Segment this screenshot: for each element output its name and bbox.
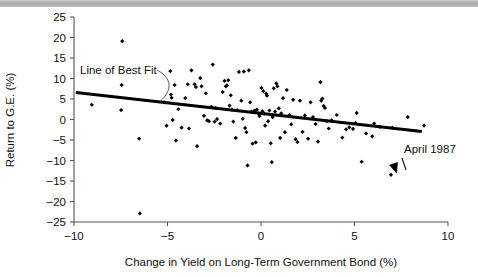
y-tick-label: 10 [53, 73, 66, 85]
data-point [272, 86, 276, 90]
data-point [168, 69, 172, 73]
y-tick-label: 15 [53, 52, 66, 64]
y-tick-label: −15 [46, 175, 66, 187]
data-point [267, 108, 271, 112]
data-point [422, 124, 426, 128]
data-point [340, 135, 344, 139]
data-point [351, 127, 355, 131]
axes [74, 17, 448, 222]
y-tick-label: 25 [53, 11, 66, 23]
y-tick-label: −5 [53, 134, 66, 146]
data-point [183, 96, 187, 100]
y-tick-label: −25 [46, 216, 66, 228]
april-1987-arrow-shaft [402, 158, 406, 170]
data-point [261, 89, 265, 93]
y-tick-label: −10 [46, 155, 66, 167]
data-point [347, 125, 351, 129]
data-point [360, 160, 364, 164]
scatter-plot: −25−20−15−10−50510152025 −10−50510 Chang… [0, 0, 478, 277]
x-tick-label: 5 [351, 230, 357, 242]
data-point [226, 78, 230, 82]
data-point [327, 126, 331, 130]
data-point [285, 88, 289, 92]
data-point [245, 163, 249, 167]
x-axis-title: Change in Yield on Long-Term Government … [125, 256, 397, 268]
data-point [355, 111, 359, 115]
data-point [289, 122, 293, 126]
data-point [335, 113, 339, 117]
data-point [300, 130, 304, 134]
data-point [199, 84, 203, 88]
data-point [277, 106, 281, 110]
data-point [195, 144, 199, 148]
data-point [171, 118, 175, 122]
data-point [306, 137, 310, 141]
data-point [202, 114, 206, 118]
line-of-best-fit [76, 92, 422, 131]
data-point [314, 122, 318, 126]
data-point [173, 83, 177, 87]
data-point [259, 86, 263, 90]
y-tick-label: 5 [60, 93, 66, 105]
data-point [237, 70, 241, 74]
data-point [291, 98, 295, 102]
data-point [247, 68, 251, 72]
data-point [187, 126, 191, 130]
april-1987-arrow-head [389, 162, 398, 174]
data-point [179, 126, 183, 130]
data-point [266, 119, 270, 123]
data-point [406, 115, 410, 119]
data-point [389, 173, 393, 177]
data-point [176, 107, 180, 111]
data-point [244, 130, 248, 134]
data-point [231, 119, 235, 123]
data-point [283, 130, 287, 134]
data-point [169, 92, 173, 96]
y-axis-title: Return to G.E. (%) [4, 73, 16, 168]
data-point [248, 100, 252, 104]
data-point [364, 131, 368, 135]
x-tick-label: 10 [442, 230, 455, 242]
data-point [370, 134, 374, 138]
data-point [186, 82, 190, 86]
y-axis-ticks: −25−20−15−10−50510152025 [46, 11, 74, 228]
data-point [120, 83, 124, 87]
data-point [211, 62, 215, 66]
x-axis-ticks: −10−50510 [64, 222, 454, 242]
data-point [229, 93, 233, 97]
april-1987-arrow [389, 158, 406, 174]
data-point [344, 127, 348, 131]
data-point [270, 160, 274, 164]
data-point [218, 122, 222, 126]
data-point [281, 96, 285, 100]
data-point [90, 103, 94, 107]
x-tick-label: −10 [64, 230, 84, 242]
data-point [243, 126, 247, 130]
data-point [227, 103, 231, 107]
data-point [278, 136, 282, 140]
data-point [120, 39, 124, 43]
data-point [189, 68, 193, 72]
annotation-april-1987: April 1987 [404, 143, 456, 155]
data-point [308, 100, 312, 104]
data-point [263, 124, 267, 128]
data-point [164, 124, 168, 128]
data-point [241, 117, 245, 121]
data-point [298, 99, 302, 103]
data-point [239, 99, 243, 103]
data-point [316, 140, 320, 144]
y-tick-label: 0 [60, 114, 66, 126]
x-tick-label: 0 [258, 230, 264, 242]
data-point [269, 141, 273, 145]
data-point [242, 69, 246, 73]
x-tick-label: −5 [161, 230, 174, 242]
data-point [222, 79, 226, 83]
line-of-best-fit-leader [157, 70, 169, 101]
data-point [234, 136, 238, 140]
data-point [170, 96, 174, 100]
annotation-line-of-best-fit: Line of Best Fit [80, 64, 158, 76]
data-point [204, 91, 208, 95]
data-point [119, 108, 123, 112]
chart-figure: −25−20−15−10−50510152025 −10−50510 Chang… [0, 0, 478, 277]
y-tick-label: 20 [53, 32, 66, 44]
